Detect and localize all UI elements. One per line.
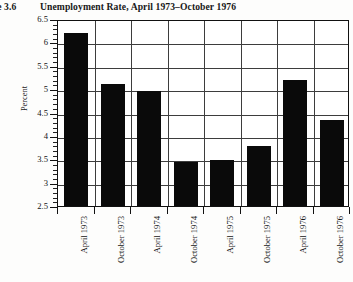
gridline-vertical: [168, 21, 169, 206]
x-tick-mark: [313, 207, 314, 214]
y-tick-label: 4.5: [8, 108, 48, 118]
y-tick-mark: [50, 184, 57, 185]
plot-area: [57, 20, 349, 207]
x-tick-label: October 1973: [116, 216, 126, 263]
x-tick-label: April 1975: [225, 216, 235, 253]
y-tick-mark: [50, 207, 57, 208]
y-axis-label: Percent: [20, 69, 29, 129]
gridline-horizontal: [58, 44, 348, 45]
x-tick-label: April 1974: [152, 216, 162, 253]
bar: [64, 33, 88, 206]
gridline-vertical: [241, 21, 242, 206]
y-tick-label: 6.5: [8, 14, 48, 24]
figure-container: re 3.6 Unemployment Rate, April 1973–Oct…: [0, 0, 353, 282]
y-tick-mark: [50, 114, 57, 115]
y-tick-mark: [50, 20, 57, 21]
x-tick-label: October 1975: [262, 216, 272, 263]
x-tick-label: October 1974: [189, 216, 199, 263]
bar: [283, 80, 307, 206]
y-tick-mark: [50, 90, 57, 91]
bar: [137, 91, 161, 206]
page-title: Unemployment Rate, April 1973–October 19…: [40, 1, 236, 12]
x-tick-mark: [94, 207, 95, 214]
gridline-vertical: [95, 21, 96, 206]
y-tick-mark: [50, 160, 57, 161]
figure-number: re 3.6: [0, 1, 16, 12]
y-tick-label: 5: [8, 84, 48, 94]
x-tick-label: October 1976: [335, 216, 345, 263]
gridline-horizontal: [58, 68, 348, 69]
y-tick-label: 3.5: [8, 154, 48, 164]
gridline-vertical: [204, 21, 205, 206]
y-tick-mark: [50, 137, 57, 138]
bar: [320, 120, 344, 206]
y-tick-label: 5.5: [8, 61, 48, 71]
gridline-vertical: [277, 21, 278, 206]
figure-title-row: re 3.6 Unemployment Rate, April 1973–Oct…: [0, 1, 353, 15]
y-tick-label: 4: [8, 131, 48, 141]
bar: [247, 146, 271, 206]
x-tick-label: April 1973: [79, 216, 89, 253]
bar: [174, 162, 198, 206]
y-tick-mark: [50, 43, 57, 44]
x-tick-mark: [57, 207, 58, 214]
gridline-vertical: [131, 21, 132, 206]
x-tick-mark: [276, 207, 277, 214]
x-tick-mark: [240, 207, 241, 214]
y-tick-label: 3: [8, 178, 48, 188]
y-tick-mark: [50, 67, 57, 68]
y-tick-label: 2.5: [8, 201, 48, 211]
bar: [101, 84, 125, 206]
x-tick-mark: [130, 207, 131, 214]
x-tick-mark: [203, 207, 204, 214]
gridline-vertical: [314, 21, 315, 206]
x-tick-mark: [167, 207, 168, 214]
x-tick-label: April 1976: [298, 216, 308, 253]
bar: [210, 160, 234, 206]
x-tick-mark: [349, 207, 350, 214]
y-tick-label: 6: [8, 37, 48, 47]
